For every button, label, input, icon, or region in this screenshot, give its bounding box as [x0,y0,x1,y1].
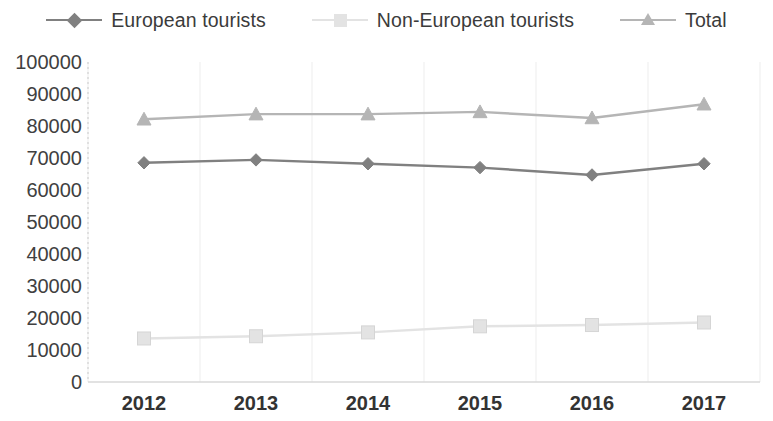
data-point-marker [138,157,150,169]
y-axis-tick-label: 100000 [0,51,82,74]
x-axis-tick-label: 2016 [570,392,615,415]
y-axis-tick-label: 90000 [0,83,82,106]
data-point-marker [586,169,598,181]
y-axis-tick-label: 30000 [0,275,82,298]
data-point-marker [362,158,374,170]
x-axis-tick-label: 2015 [458,392,503,415]
data-point-marker [250,154,262,166]
data-point-marker [362,326,375,339]
chart-canvas [88,62,760,382]
legend-marker-non-european [334,14,347,27]
y-axis-tick-label: 0 [0,371,82,394]
x-axis-tick-label: 2014 [346,392,391,415]
data-point-marker [697,97,711,110]
square-marker-icon [312,10,368,30]
legend-marker-total [641,13,655,25]
data-point-marker [138,332,151,345]
x-axis: 201220132014201520162017 [88,392,760,420]
x-axis-tick-label: 2013 [234,392,279,415]
legend-label-total: Total [685,9,727,32]
y-axis-tick-label: 70000 [0,147,82,170]
plot-area [88,62,760,382]
y-axis-tick-label: 20000 [0,307,82,330]
y-axis: 1000009000080000700006000050000400003000… [0,0,82,421]
y-axis-tick-label: 80000 [0,115,82,138]
y-axis-tick-label: 60000 [0,179,82,202]
chart-legend: European tourists Non-European tourists … [0,0,773,40]
data-point-marker [698,158,710,170]
data-point-marker [586,319,599,332]
legend-label-european: European tourists [111,9,266,32]
data-point-marker [474,161,486,173]
data-point-marker [250,330,263,343]
y-axis-tick-label: 40000 [0,243,82,266]
x-axis-tick-label: 2012 [122,392,167,415]
line-chart: European tourists Non-European tourists … [0,0,773,421]
y-axis-tick-label: 50000 [0,211,82,234]
triangle-marker-icon [620,10,676,30]
y-axis-tick-label: 10000 [0,339,82,362]
data-point-marker [474,320,487,333]
x-axis-tick-label: 2017 [682,392,727,415]
legend-item-total[interactable]: Total [620,9,727,32]
data-point-marker [698,316,711,329]
legend-item-non-european-tourists[interactable]: Non-European tourists [312,9,574,32]
legend-label-non-european: Non-European tourists [377,9,574,32]
